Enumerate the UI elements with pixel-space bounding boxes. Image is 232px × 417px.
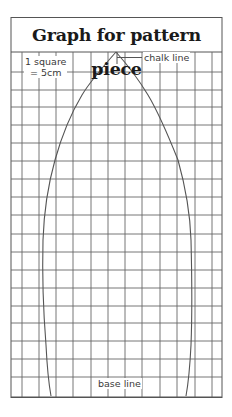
chalk-line-label: chalk line [143, 52, 190, 63]
scale-label: 1 square = 5cm [24, 56, 67, 78]
scale-label-line2: = 5cm [25, 67, 66, 78]
base-line-label: base line [97, 378, 142, 389]
pattern-outline [43, 52, 192, 396]
scale-label-line1: 1 square [25, 56, 66, 67]
page-title: Graph for pattern piece [11, 18, 222, 52]
